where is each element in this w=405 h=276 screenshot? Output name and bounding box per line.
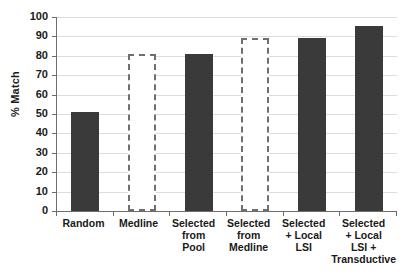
x-tick-label-line: Medline: [221, 241, 276, 253]
y-tick-label: 90: [36, 29, 48, 42]
bar[interactable]: [185, 54, 213, 211]
x-tick-label-line: Random: [56, 217, 111, 229]
y-tick-label: 70: [36, 68, 48, 81]
y-tick-label: 30: [36, 146, 48, 159]
bar-slot: [170, 17, 227, 211]
x-tick-label-line: Transductive: [331, 253, 396, 265]
x-tick-mark: [283, 211, 284, 216]
x-tick-label-line: Selected: [166, 217, 221, 229]
x-tick-mark: [169, 211, 170, 216]
x-axis-tick-labels: RandomMedlineSelectedfromPoolSelectedfro…: [56, 217, 396, 265]
x-tick-label-line: from: [166, 229, 221, 241]
y-tick-label: 10: [36, 185, 48, 198]
x-tick-label-line: Medline: [111, 217, 166, 229]
x-axis-tick-marks: [56, 211, 397, 216]
bar-slot: [227, 17, 284, 211]
x-tick-label-line: LSI: [276, 241, 331, 253]
y-tick-label: 0: [42, 204, 48, 217]
x-tick-label: Selected+ LocalLSI: [276, 217, 331, 265]
bar[interactable]: [128, 54, 156, 211]
x-tick-label: Medline: [111, 217, 166, 265]
bar[interactable]: [355, 26, 383, 211]
y-tick-label: 40: [36, 126, 48, 139]
bar[interactable]: [241, 38, 269, 211]
x-tick-label-line: Selected: [331, 217, 396, 229]
x-tick-mark: [113, 211, 114, 216]
bar-slot: [284, 17, 341, 211]
y-tick-label: 80: [36, 49, 48, 62]
y-tick-label: 100: [30, 10, 48, 23]
x-tick-label: Random: [56, 217, 111, 265]
x-tick-label-line: Pool: [166, 241, 221, 253]
bar-slot: [57, 17, 114, 211]
x-tick-label-line: + Local: [331, 229, 396, 241]
y-tick-label: 50: [36, 107, 48, 120]
y-tick-label: 20: [36, 165, 48, 178]
bar-slot: [340, 17, 397, 211]
bar[interactable]: [71, 112, 99, 211]
y-tick-label: 60: [36, 88, 48, 101]
x-tick-label-line: from: [221, 229, 276, 241]
x-tick-mark: [396, 211, 397, 216]
x-tick-label: SelectedfromPool: [166, 217, 221, 265]
y-axis-tick-labels: 1009080706050403020100: [0, 17, 56, 211]
x-tick-label: SelectedfromMedline: [221, 217, 276, 265]
bar-series: [57, 17, 397, 211]
x-tick-mark: [339, 211, 340, 216]
x-tick-label-line: Selected: [221, 217, 276, 229]
plot-area: [56, 17, 397, 212]
x-tick-label: Selected+ LocalLSI +Transductive: [331, 217, 396, 265]
bar-chart: % Match 1009080706050403020100 RandomMed…: [0, 0, 405, 276]
x-tick-label-line: + Local: [276, 229, 331, 241]
x-tick-mark: [226, 211, 227, 216]
x-tick-label-line: LSI +: [331, 241, 396, 253]
x-tick-label-line: Selected: [276, 217, 331, 229]
x-tick-mark: [56, 211, 57, 216]
bar[interactable]: [298, 38, 326, 211]
bar-slot: [114, 17, 171, 211]
